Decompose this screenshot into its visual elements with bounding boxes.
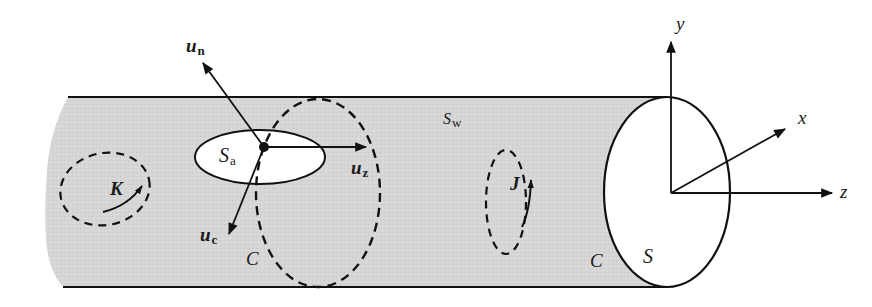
label-k: K — [109, 178, 124, 199]
label-s: S — [643, 245, 653, 267]
label-c-left: C — [246, 248, 259, 269]
label-c-right: C — [590, 250, 603, 271]
aperture-point — [259, 142, 269, 152]
cross-section-s — [604, 97, 730, 287]
label-j: J — [509, 173, 520, 194]
label-axis-y: y — [674, 13, 685, 34]
label-axis-z: z — [839, 181, 848, 202]
cylinder-wall — [45, 97, 668, 287]
label-un: un — [186, 35, 206, 58]
waveguide-diagram: un uz uc Sa Sw K J C C S y x z — [0, 0, 872, 307]
label-axis-x: x — [797, 107, 807, 128]
